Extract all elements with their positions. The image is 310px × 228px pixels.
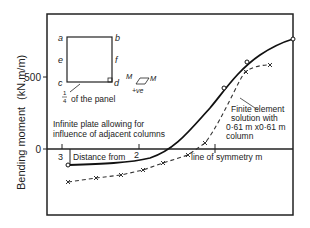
quarter-text: of the panel xyxy=(71,94,116,104)
quarter-denominator: 4 xyxy=(63,98,67,104)
xtick-label-2: 2 xyxy=(134,150,139,160)
panel-square xyxy=(67,37,112,82)
moment-sign-icon xyxy=(136,78,149,84)
ytick-label-0: 0 xyxy=(35,144,41,155)
ylabel-main: Bending moment xyxy=(15,107,27,190)
solid-label-line2: influence of adjacent columns xyxy=(53,129,165,139)
xlabel-right: line of symmetry m xyxy=(191,152,262,162)
corner-b-label: b xyxy=(115,33,120,43)
panel-inset: a b c d e f 1 4 of the panel M M +ve xyxy=(58,33,157,104)
solid-label-line1: Infinite plate allowing for xyxy=(53,119,144,129)
mid-e-label: e xyxy=(58,55,63,65)
fe-label-line4: column xyxy=(226,131,254,141)
corner-d-label: d xyxy=(114,78,120,88)
moment-right-label: M xyxy=(150,74,157,83)
xtick-label-3: 3 xyxy=(58,152,63,162)
xlabel-left: Distance from xyxy=(73,152,125,162)
ylabel-units: (kN.m/m) xyxy=(15,55,27,100)
corner-a-label: a xyxy=(58,33,63,43)
quarter-leader xyxy=(70,84,80,92)
quarter-numerator: 1 xyxy=(63,90,67,96)
positive-sign-label: +ve xyxy=(132,87,144,94)
mid-f-label: f xyxy=(115,55,119,65)
corner-c-label: c xyxy=(58,78,63,88)
chart: 500 0 Bending moment (kN.m/m) 3 2 Distan… xyxy=(0,0,310,228)
moment-left-label: M xyxy=(126,72,133,81)
